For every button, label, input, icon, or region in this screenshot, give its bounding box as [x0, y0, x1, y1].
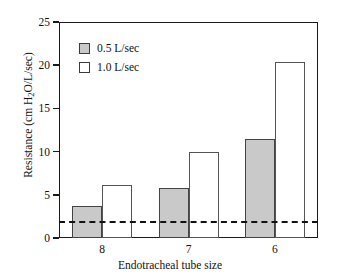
y-axis-title-suffix: O/L/sec) [22, 52, 34, 92]
legend-item: 0.5 L/sec [79, 40, 139, 56]
x-axis-tick-label: 7 [186, 243, 192, 255]
bar-7-0-5-l-sec [159, 188, 189, 238]
bar-6-1-0-l-sec [275, 62, 305, 238]
legend-swatch-icon [79, 43, 90, 54]
x-axis-tick-label: 8 [99, 243, 105, 255]
legend-label: 0.5 L/sec [97, 42, 139, 54]
y-axis-tick-label: 5 [44, 186, 50, 204]
y-axis-tick-label: 15 [39, 99, 51, 117]
resistance-bar-chart: 0510152025 Resistance (cm H2O/L/sec) End… [0, 0, 340, 279]
bar-6-0-5-l-sec [245, 139, 275, 238]
x-axis-title: Endotracheal tube size [0, 259, 340, 271]
legend-label: 1.0 L/sec [97, 61, 139, 73]
y-axis-title-prefix: Resistance (cm H [22, 97, 34, 178]
y-axis-tick-label: 20 [39, 56, 51, 74]
x-axis-tick-label: 6 [272, 243, 278, 255]
y-axis-title-subscript: 2 [26, 92, 36, 96]
y-axis-tick-label: 25 [39, 13, 51, 31]
legend-item: 1.0 L/sec [79, 59, 139, 75]
reference-line [59, 221, 318, 223]
y-axis-tick-label: 0 [44, 229, 50, 247]
bar-7-1-0-l-sec [189, 152, 219, 238]
y-axis-title: Resistance (cm H2O/L/sec) [22, 10, 36, 220]
legend-swatch-icon [79, 62, 90, 73]
y-axis-tick-label: 10 [39, 143, 51, 161]
bar-8-1-0-l-sec [102, 185, 132, 238]
chart-legend: 0.5 L/sec1.0 L/sec [79, 40, 139, 78]
